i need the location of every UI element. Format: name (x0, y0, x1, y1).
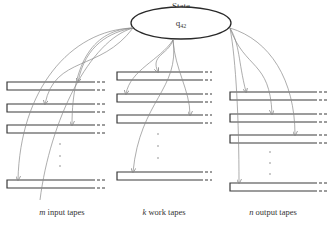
input-tape-2 (7, 104, 106, 112)
output-tape-3 (230, 135, 328, 143)
output-tape-2 (230, 114, 328, 122)
output-tapes-group (230, 92, 328, 191)
work-head-arrow-1 (156, 40, 173, 72)
input-tapes-group (7, 82, 106, 188)
output-tape-4 (230, 183, 328, 191)
input-tape-1 (7, 82, 106, 90)
output-head-arrow-3 (230, 28, 295, 135)
work-tape-4 (117, 172, 212, 180)
output-head-arrow-2 (230, 28, 272, 114)
work-ellipsis-dots (157, 133, 159, 159)
input-tape-4 (7, 180, 106, 188)
state-node: q42 (131, 7, 231, 39)
output-tape-1 (230, 92, 328, 100)
work-head-arrow-3 (173, 40, 190, 115)
work-head-arrow-2 (126, 40, 173, 94)
work-tape-1 (117, 72, 212, 80)
output-tapes-caption: n output tapes (249, 207, 297, 217)
output-ellipsis-dots (269, 151, 271, 175)
input-ellipsis-dots (59, 143, 61, 167)
output-head-arrow-4 (230, 28, 239, 183)
multitape-turing-machine-diagram: State q42 m input tapes k work tapes n o… (0, 0, 329, 225)
work-tape-2 (117, 94, 212, 102)
work-tapes-caption: k work tapes (143, 207, 186, 217)
output-head-arrow-1 (230, 28, 246, 92)
work-tapes-group (117, 72, 212, 180)
input-head-arrow-5 (40, 28, 133, 200)
work-tape-3 (117, 115, 212, 123)
input-tapes-caption: m input tapes (39, 207, 84, 217)
